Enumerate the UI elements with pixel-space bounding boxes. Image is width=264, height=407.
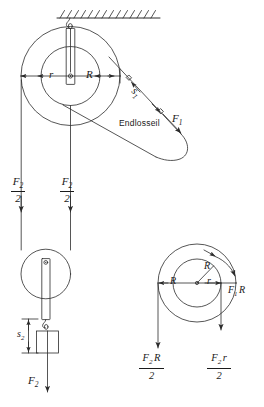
- label-outer-radius-R: R: [86, 69, 93, 80]
- f2-symbol: F: [28, 374, 35, 386]
- half-f2-right-numerator: F2: [60, 176, 74, 191]
- half-f2-left-denominator: 2: [11, 192, 25, 205]
- label-right-radius-r: r: [207, 276, 211, 286]
- f1R-subscript: 1: [234, 290, 237, 297]
- endlosseil-rope: [63, 57, 188, 160]
- f2-subscript: 2: [35, 380, 39, 389]
- figure-canvas: r R s1 F1 Endlosseil F2 2 F2 2 s2 F2 R r…: [0, 0, 264, 407]
- label-half-f2-left: F2 2: [11, 176, 25, 205]
- f1-subscript: 1: [179, 118, 183, 127]
- f2R-denominator: 2: [139, 369, 164, 381]
- s2-subscript: 2: [21, 334, 24, 341]
- label-force-f2: F2: [28, 375, 38, 389]
- f2R-numerator: F2R: [139, 352, 164, 368]
- label-force-f1: F1: [172, 113, 182, 127]
- lower-hanger-rod: [42, 259, 50, 330]
- label-torque-f1R: F1R: [228, 285, 245, 298]
- label-displacement-s2: s2: [17, 329, 24, 342]
- f1-symbol: F: [172, 112, 179, 124]
- label-right-radius-R-upper: R: [204, 261, 210, 271]
- half-f2-right-denominator: 2: [60, 192, 74, 205]
- movable-pulley: [21, 249, 71, 299]
- s2-dimension: [22, 319, 38, 353]
- hatched-ceiling: [57, 11, 160, 19]
- ceiling-hook: [66, 18, 72, 29]
- f2r-numerator: F2r: [207, 352, 231, 368]
- physics-diagram: [0, 0, 264, 407]
- half-f2-left-numerator: F2: [11, 176, 25, 191]
- f1R-tail: R: [239, 284, 245, 295]
- label-endlosseil: Endlosseil: [119, 119, 160, 128]
- right-free-body-diagram: [158, 244, 236, 348]
- f2r-denominator: 2: [207, 369, 231, 381]
- label-torque-f2r-half: F2r 2: [207, 352, 231, 381]
- label-inner-radius-r: r: [49, 69, 53, 80]
- label-half-f2-right: F2 2: [60, 176, 74, 205]
- label-right-radius-R-left: R: [170, 276, 176, 286]
- label-torque-f2R-half: F2R 2: [139, 352, 164, 381]
